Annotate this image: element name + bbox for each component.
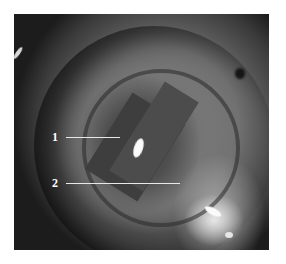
annotation-label-1: 1 [52, 131, 58, 143]
annotation-label-2: 2 [52, 177, 58, 189]
annotation-leader-line-1 [66, 137, 120, 138]
dark-spot [235, 68, 245, 79]
annotation-leader-line-2 [66, 183, 180, 184]
light-reflection [14, 46, 24, 60]
light-reflection [225, 232, 233, 238]
